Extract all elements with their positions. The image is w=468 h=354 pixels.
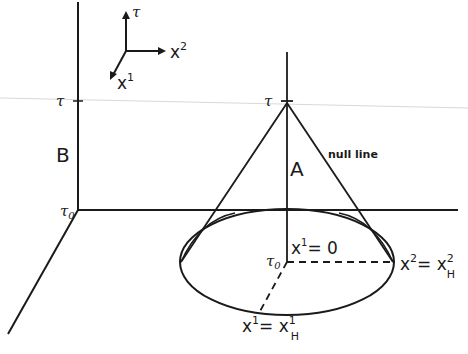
axis-x1-zero-label: x1= 0 [291, 237, 338, 258]
horizon-x1-label: x1= x1H [242, 314, 299, 343]
null-line-label: null line [328, 148, 378, 161]
region-a-label: A [290, 157, 304, 181]
legend-tau-label: τ [132, 3, 141, 21]
cone-left-null-line [181, 103, 287, 262]
horizon-x2-label: x2= x2H [400, 252, 455, 281]
faint-scan-line [0, 98, 468, 108]
apex-tau-label: τ [264, 92, 273, 110]
region-b-label: B [56, 143, 70, 167]
left-tau0-label: τ0 [60, 202, 75, 221]
legend-x2-label: x2 [170, 40, 187, 62]
x1-plane-line [8, 210, 78, 334]
legend-x1-label: x1 [117, 71, 134, 93]
left-tau-label: τ [56, 92, 65, 110]
center-tau0-label: τ0 [266, 252, 281, 271]
axes-legend [110, 11, 166, 80]
light-cone-diagram: τ x2 x1 τ B τ0 τ A null line τ0 x1= 0 x2… [0, 0, 468, 354]
